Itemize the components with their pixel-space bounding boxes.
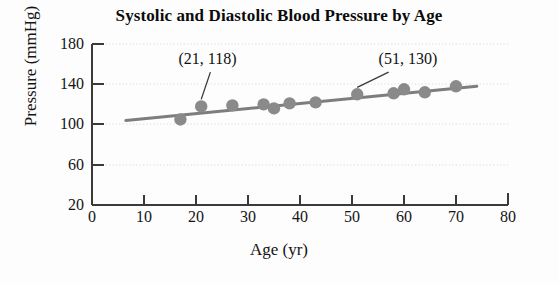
annotation-leader-line xyxy=(357,72,388,87)
x-tick-label-50: 50 xyxy=(332,208,372,226)
data-point-marker xyxy=(450,80,462,92)
y-tick-marks xyxy=(92,84,104,165)
y-tick-label-100: 100 xyxy=(40,115,84,133)
x-tick-label-30: 30 xyxy=(228,208,268,226)
x-tick-label-10: 10 xyxy=(124,208,164,226)
y-tick-label-60: 60 xyxy=(40,156,84,174)
x-tick-label-70: 70 xyxy=(436,208,476,226)
data-point-marker xyxy=(283,97,295,109)
chart-figure: Systolic and Diastolic Blood Pressure by… xyxy=(0,0,558,283)
data-point-marker xyxy=(351,88,363,100)
data-point-annotation-second: (51, 130) xyxy=(379,50,438,68)
data-point-marker xyxy=(226,99,238,111)
data-point-marker xyxy=(195,100,207,112)
data-point-marker xyxy=(398,83,410,95)
x-tick-label-20: 20 xyxy=(176,208,216,226)
data-point-marker xyxy=(309,96,321,108)
y-tick-label-180: 180 xyxy=(40,35,84,53)
data-point-marker xyxy=(174,113,186,125)
x-tick-label-40: 40 xyxy=(280,208,320,226)
x-tick-marks xyxy=(144,195,456,205)
data-point-annotation-first: (21, 118) xyxy=(178,50,236,68)
x-tick-label-0: 0 xyxy=(72,208,112,226)
data-point-marker xyxy=(268,102,280,114)
data-point-marker xyxy=(419,86,431,98)
y-tick-label-140: 140 xyxy=(40,75,84,93)
x-tick-label-80: 80 xyxy=(488,208,528,226)
x-tick-label-60: 60 xyxy=(384,208,424,226)
data-point-markers xyxy=(174,80,462,126)
annotation-leader-line xyxy=(201,72,210,99)
